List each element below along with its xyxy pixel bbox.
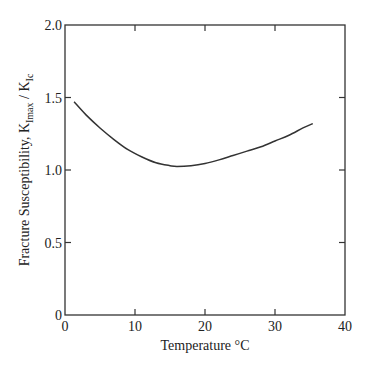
y-axis-label: Fracture Susceptibility, KImax / KIc (17, 73, 35, 266)
plot-frame (65, 25, 345, 315)
y-tick-label: 2.0 (45, 18, 63, 33)
y-axis-label-sub1: Imax (24, 102, 35, 123)
x-tick-label: 0 (62, 319, 69, 334)
x-tick-label: 20 (198, 319, 212, 334)
y-tick-label: 0.5 (45, 236, 63, 251)
x-tick-label: 40 (338, 319, 352, 334)
x-axis-ticks: 010203040 (62, 25, 353, 334)
y-axis-ticks: 00.51.01.52.0 (45, 18, 346, 323)
y-tick-label: 1.0 (45, 163, 63, 178)
x-tick-label: 30 (268, 319, 282, 334)
data-series (74, 102, 313, 167)
x-axis-label: Temperature °C (161, 338, 250, 353)
series-line (74, 102, 313, 167)
y-tick-label: 0 (55, 308, 62, 323)
y-axis-label-sub2: Ic (24, 73, 35, 81)
y-axis-label-mid: / K (17, 81, 32, 102)
x-tick-label: 10 (128, 319, 142, 334)
y-tick-label: 1.5 (45, 91, 63, 106)
plot-border (65, 25, 345, 315)
y-axis-label-prefix: Fracture Susceptibility, K (17, 123, 32, 266)
chart: 010203040 00.51.01.52.0 Temperature °C F… (0, 0, 369, 368)
